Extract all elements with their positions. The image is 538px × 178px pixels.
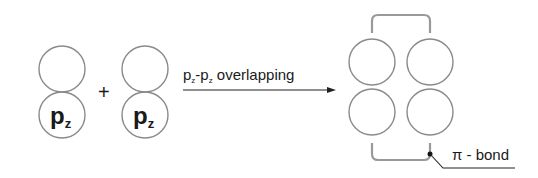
overlapped-orbitals [349, 39, 453, 135]
pi-bond-diagram: pz + pz pz-pz overlapping π - bond [0, 0, 538, 178]
overlap-label: pz-pz overlapping [183, 66, 294, 85]
pz-label-right: pz [133, 102, 155, 131]
bottom-bracket [372, 143, 430, 160]
plus-sign: + [98, 81, 110, 103]
pz-orbital-right: pz [122, 46, 168, 138]
pz-orbital-left: pz [39, 46, 85, 138]
top-bracket [372, 15, 430, 33]
pi-bond-label: π - bond [452, 146, 509, 163]
pz-label-left: pz [50, 102, 72, 131]
arrow [183, 87, 336, 93]
